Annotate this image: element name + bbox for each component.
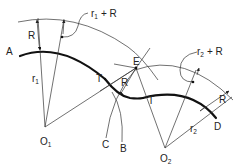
label-T1: T (96, 73, 102, 84)
point-E (135, 67, 138, 70)
label-r1: r1 (32, 73, 39, 85)
label-C: C (102, 139, 109, 150)
label-D: D (214, 121, 221, 132)
line-E-O2 (136, 68, 165, 148)
label-A: A (6, 46, 13, 57)
label-T2: T (148, 95, 154, 106)
leader-r2-plus-R (180, 52, 197, 82)
label-R-left: R (28, 30, 35, 41)
label-E: E (133, 56, 140, 67)
label-r1-plus-R: r1+ R (91, 8, 117, 20)
label-O2: O2 (160, 153, 172, 165)
radius-line-O1-b (45, 19, 64, 127)
label-R-middle: R (121, 77, 128, 88)
label-O1: O1 (40, 136, 52, 148)
label-r2: r2 (190, 123, 197, 135)
label-r2-plus-R: r2+ R (197, 46, 223, 58)
reverse-curve-diagram: A R r1 r1+ R O1 T R E T C B O2 r2 D R r2… (0, 0, 250, 168)
label-B: B (120, 143, 127, 154)
arc-to-B (112, 92, 122, 142)
radius-line-O1-a (38, 18, 45, 127)
label-R-right: R (219, 94, 226, 105)
